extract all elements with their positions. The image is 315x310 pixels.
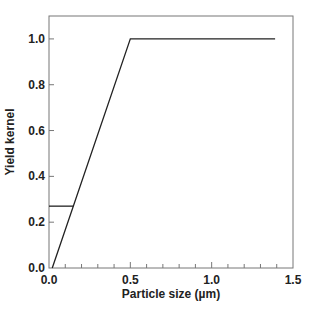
plot-frame — [49, 16, 293, 268]
y-tick-label: 0.8 — [28, 78, 45, 92]
x-axis-label: Particle size (µm) — [122, 287, 220, 301]
y-axis-label: Yield kernel — [3, 109, 17, 176]
y-tick-label: 0.6 — [28, 124, 45, 138]
series-line-ramp — [52, 39, 275, 268]
x-tick-label: 0.0 — [41, 273, 58, 287]
x-tick-label: 1.5 — [285, 273, 302, 287]
y-tick-label: 0.4 — [28, 169, 45, 183]
x-tick-label: 0.5 — [122, 273, 139, 287]
x-tick-label: 1.0 — [203, 273, 220, 287]
y-tick-label: 0.0 — [28, 261, 45, 275]
chart: 0.00.51.01.5 0.00.20.40.60.81.0 Particle… — [0, 0, 315, 310]
y-tick-label: 1.0 — [28, 32, 45, 46]
y-tick-label: 0.2 — [28, 215, 45, 229]
